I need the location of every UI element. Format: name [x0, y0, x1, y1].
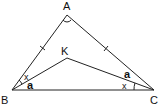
triangle-diagram: A B C K x a a x [0, 0, 162, 108]
angle-label-kbc: a [27, 79, 34, 91]
segment-bk [12, 58, 67, 90]
angle-label-kcb: x [122, 81, 127, 91]
segment-kc [67, 58, 154, 90]
angle-label-kca: a [124, 68, 131, 80]
label-c: C [150, 94, 158, 106]
angle-arc-b-outer [19, 80, 22, 84]
angle-arc-a [63, 20, 71, 22]
angle-arc-c [134, 83, 135, 90]
label-b: B [1, 94, 8, 106]
label-k: K [61, 45, 69, 57]
segment-ac [67, 15, 154, 90]
segment-ab [12, 15, 67, 90]
label-a: A [63, 0, 71, 12]
